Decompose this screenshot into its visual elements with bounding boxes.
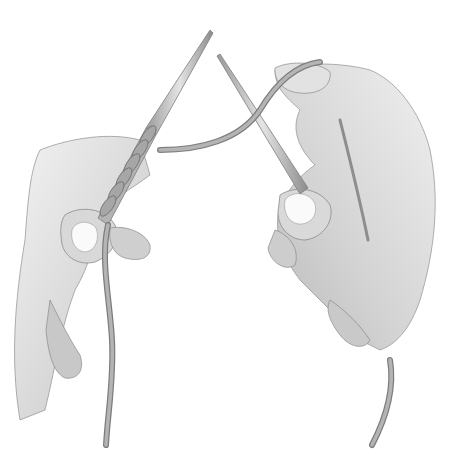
knitting-illustration [0, 0, 455, 471]
right-hand [268, 63, 435, 350]
